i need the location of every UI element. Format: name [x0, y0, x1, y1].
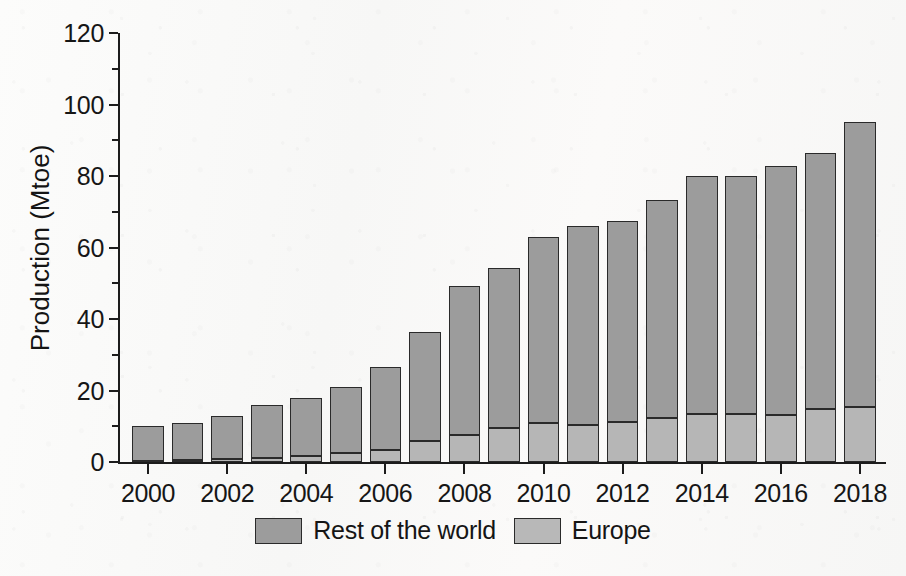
y-axis-tick-minor [112, 139, 118, 141]
x-axis-label: 2014 [675, 479, 729, 508]
bar-segment-europe[interactable] [725, 414, 757, 462]
x-axis-label: 2016 [754, 479, 808, 508]
bar-segment-rest-of-the-world[interactable] [646, 200, 678, 418]
bar-2007[interactable] [409, 33, 441, 462]
bar-segment-europe[interactable] [607, 422, 639, 462]
bar-segment-europe[interactable] [528, 423, 560, 462]
bar-2008[interactable] [449, 33, 481, 462]
bar-segment-europe[interactable] [567, 425, 599, 462]
bar-segment-europe[interactable] [290, 456, 322, 462]
bar-2000[interactable] [132, 33, 164, 462]
bar-2015[interactable] [725, 33, 757, 462]
x-axis-label: 2006 [358, 479, 412, 508]
bar-segment-rest-of-the-world[interactable] [132, 426, 164, 460]
bar-segment-europe[interactable] [449, 435, 481, 462]
x-axis-line [118, 462, 886, 464]
x-axis-label: 2000 [121, 479, 175, 508]
y-axis-label: 40 [77, 305, 104, 334]
bar-2002[interactable] [211, 33, 243, 462]
x-axis-tick [147, 464, 149, 474]
bar-2003[interactable] [251, 33, 283, 462]
y-axis-tick-major [109, 247, 118, 249]
bar-segment-rest-of-the-world[interactable] [567, 226, 599, 425]
chart-legend: Rest of the world Europe [0, 516, 906, 545]
bar-segment-rest-of-the-world[interactable] [765, 166, 797, 415]
bar-segment-europe[interactable] [409, 441, 441, 462]
bar-2001[interactable] [172, 33, 204, 462]
bar-2016[interactable] [765, 33, 797, 462]
legend-swatch-icon-rest-of-the-world [255, 518, 302, 544]
bar-segment-rest-of-the-world[interactable] [370, 367, 402, 450]
bar-2005[interactable] [330, 33, 362, 462]
legend-label-rest-of-the-world: Rest of the world [313, 516, 496, 545]
bar-segment-europe[interactable] [172, 460, 204, 462]
bar-segment-rest-of-the-world[interactable] [172, 423, 204, 459]
bar-2006[interactable] [370, 33, 402, 462]
bar-segment-rest-of-the-world[interactable] [844, 122, 876, 407]
legend-swatch-icon-europe [514, 518, 561, 544]
y-axis-tick-minor [112, 425, 118, 427]
bar-segment-europe[interactable] [211, 459, 243, 462]
bar-segment-europe[interactable] [488, 428, 520, 462]
bar-segment-europe[interactable] [805, 409, 837, 462]
x-axis-tick [543, 464, 545, 474]
bar-segment-rest-of-the-world[interactable] [686, 176, 718, 413]
y-axis-tick-minor [112, 354, 118, 356]
bar-segment-europe[interactable] [765, 415, 797, 462]
bar-segment-rest-of-the-world[interactable] [449, 286, 481, 434]
bar-segment-rest-of-the-world[interactable] [725, 176, 757, 414]
bar-2012[interactable] [607, 33, 639, 462]
y-axis-label: 100 [63, 90, 104, 119]
y-axis-tick-minor [112, 282, 118, 284]
y-axis-tick-minor [112, 211, 118, 213]
x-axis-label: 2018 [833, 479, 887, 508]
bar-segment-europe[interactable] [686, 414, 718, 462]
bar-segment-rest-of-the-world[interactable] [251, 405, 283, 458]
x-axis-label: 2010 [517, 479, 571, 508]
x-axis-label: 2008 [437, 479, 491, 508]
bar-segment-europe[interactable] [370, 450, 402, 462]
x-axis-tick [780, 464, 782, 474]
bar-segment-rest-of-the-world[interactable] [290, 398, 322, 456]
y-axis-tick-major [109, 175, 118, 177]
bar-segment-europe[interactable] [646, 418, 678, 462]
x-axis-tick [384, 464, 386, 474]
bar-2018[interactable] [844, 33, 876, 462]
bar-segment-europe[interactable] [251, 458, 283, 462]
legend-item-europe[interactable]: Europe [514, 516, 651, 545]
bar-2017[interactable] [805, 33, 837, 462]
bar-segment-rest-of-the-world[interactable] [211, 416, 243, 459]
bar-segment-rest-of-the-world[interactable] [528, 237, 560, 424]
bar-2004[interactable] [290, 33, 322, 462]
chart-canvas: Production (Mtoe) 020406080100120 200020… [0, 0, 906, 576]
y-axis-label: 0 [90, 448, 104, 477]
bar-segment-rest-of-the-world[interactable] [330, 387, 362, 453]
bar-segment-rest-of-the-world[interactable] [607, 221, 639, 422]
x-axis-tick [859, 464, 861, 474]
bar-2010[interactable] [528, 33, 560, 462]
x-axis-label: 2004 [279, 479, 333, 508]
bar-segment-rest-of-the-world[interactable] [409, 332, 441, 441]
bar-segment-europe[interactable] [844, 407, 876, 462]
y-axis-tick-major [109, 104, 118, 106]
bar-2011[interactable] [567, 33, 599, 462]
x-axis-tick [622, 464, 624, 474]
bar-segment-europe[interactable] [330, 453, 362, 462]
y-axis-title: Production (Mtoe) [25, 144, 56, 351]
bar-segment-rest-of-the-world[interactable] [488, 268, 520, 429]
legend-label-europe: Europe [572, 516, 651, 545]
legend-item-rest-of-the-world[interactable]: Rest of the world [255, 516, 496, 545]
x-axis-label: 2012 [596, 479, 650, 508]
bar-2014[interactable] [686, 33, 718, 462]
y-axis-tick-major [109, 390, 118, 392]
bar-2009[interactable] [488, 33, 520, 462]
x-axis-label: 2002 [200, 479, 254, 508]
y-axis-line [118, 33, 120, 462]
x-axis-tick [463, 464, 465, 474]
x-axis-tick [701, 464, 703, 474]
y-axis-tick-major [109, 461, 118, 463]
bar-segment-rest-of-the-world[interactable] [805, 153, 837, 409]
x-axis-tick [305, 464, 307, 474]
bar-2013[interactable] [646, 33, 678, 462]
bar-segment-europe[interactable] [132, 460, 164, 462]
